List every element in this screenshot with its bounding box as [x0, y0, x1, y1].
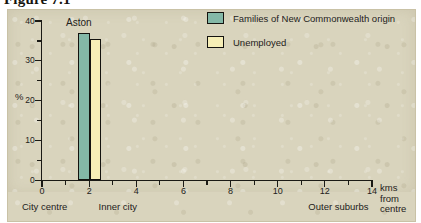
zone-label-city-centre: City centre — [22, 201, 67, 212]
x-tick-minor — [112, 181, 113, 185]
x-axis-unit-line-3: centre — [380, 204, 406, 215]
y-tick-major — [35, 60, 41, 61]
x-tick-minor — [206, 181, 207, 185]
x-tick-label: 6 — [171, 186, 195, 196]
x-tick-label: 8 — [219, 186, 243, 196]
zone-label-inner-city: Inner city — [99, 201, 138, 212]
x-tick-minor — [254, 181, 255, 185]
bar-group-label: Aston — [66, 17, 92, 28]
x-tick-label: 12 — [313, 186, 337, 196]
x-tick-minor — [301, 181, 302, 185]
x-axis-unit-line-1: kms — [380, 183, 406, 194]
y-tick-minor — [37, 120, 41, 121]
x-tick-minor — [348, 181, 349, 185]
y-tick-major — [35, 180, 41, 181]
x-tick-label: 4 — [124, 186, 148, 196]
bar-families-of-new-commonwealth-origin — [78, 33, 90, 180]
y-tick-major — [35, 20, 41, 21]
x-tick-label: 2 — [77, 186, 101, 196]
legend-label-families: Families of New Commonwealth origin — [233, 13, 395, 24]
figure-container: Figure 7.1 % 010203040 02468101214 Aston… — [0, 0, 421, 223]
legend-swatch-unemployed-icon — [207, 36, 224, 48]
x-tick-label: 10 — [266, 186, 290, 196]
y-tick-major — [35, 100, 41, 101]
y-tick-label: 30 — [1, 55, 35, 65]
y-tick-minor — [37, 40, 41, 41]
y-tick-major — [35, 140, 41, 141]
y-tick-label: 20 — [1, 95, 35, 105]
y-tick-minor — [37, 80, 41, 81]
figure-caption: Figure 7.1 — [4, 0, 71, 8]
zone-label-outer-suburbs: Outer suburbs — [308, 201, 368, 212]
bar-unemployed — [90, 39, 102, 180]
x-tick-minor — [159, 181, 160, 185]
legend-item-families: Families of New Commonwealth origin — [207, 12, 395, 24]
y-tick-label: 10 — [1, 135, 35, 145]
y-axis-line — [41, 20, 42, 181]
y-tick-label: 40 — [1, 16, 35, 26]
y-tick-minor — [37, 160, 41, 161]
legend-item-unemployed: Unemployed — [207, 36, 286, 48]
legend-swatch-families-icon — [207, 12, 224, 24]
x-tick-minor — [65, 181, 66, 185]
y-tick-label: 0 — [1, 175, 35, 185]
x-axis-unit-caption: kms from centre — [380, 183, 406, 215]
x-tick-label: 0 — [30, 186, 54, 196]
legend-label-unemployed: Unemployed — [233, 37, 286, 48]
